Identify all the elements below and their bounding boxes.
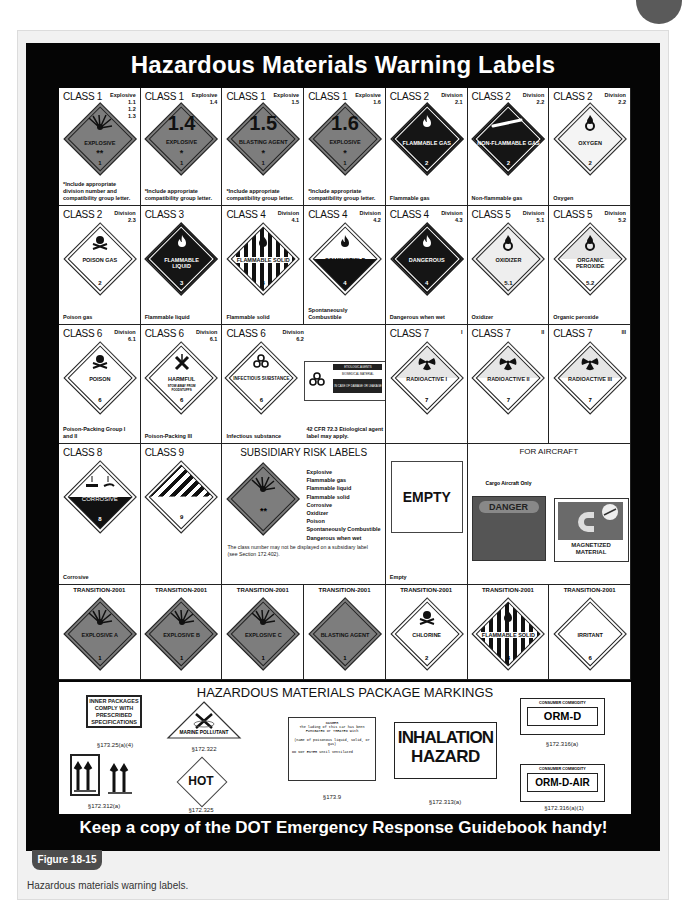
class-number: 4 [471,655,545,661]
aircraft-title: FOR AIRCRAFT [468,447,630,456]
class-name: CLASS 1 [63,91,102,102]
compat-mark: * [226,148,300,158]
label-caption: Poison-Packing Group I and II [63,426,136,440]
label-caption: *Include appropriate division number and… [63,181,136,202]
placard-diamond: DANGEROUS4 [390,222,464,296]
label-caption: Corrosive [63,574,136,581]
placard-label: OXIDIZER [481,257,535,263]
label-caption: *Include appropriate compatibility group… [145,188,218,202]
class-number: 6 [224,397,298,403]
package-markings: HAZARDOUS MATERIALS PACKAGE MARKINGS INN… [59,682,631,814]
division: III [621,329,626,336]
placard-diamond: HARMFULSTOW AWAY FROM FOODSTUFFS6 [145,341,219,415]
class-number: 3 [145,280,219,286]
placard-symbol-icon [390,114,464,134]
label-cell-row1: CLASS 2Division 2.2NON-FLAMMABLE GAS2Non… [468,88,550,206]
placard-diamond: OXIDIZER5.1 [471,222,545,296]
label-cell-row3: CLASS 7IIIRADIOACTIVE III7 [549,325,631,444]
class-number: 4 [390,280,464,286]
orm-d-marking: CONSUMER COMMODITY ORM-D [520,698,605,735]
class-number: 2 [390,655,464,661]
placard-diamond: ** [226,462,300,536]
label-caption: Empty [390,574,463,581]
label-cell-row3: CLASS 6Division 6.1POISON6Poison-Packing… [59,325,141,444]
class-number: 5.1 [471,280,545,286]
label-cell-row1: CLASS 2Division 2.1FLAMMABLE GAS2Flammab… [386,88,468,206]
fumigant-ref: §173.9 [302,794,362,800]
class-number: 2 [63,280,137,286]
explosion-icon [226,476,300,496]
subsidiary-item: Flammable solid [306,493,380,501]
subsidiary-title: SUBSIDIARY RISK LABELS [222,447,384,458]
etiologic-agent-label: ETIOLOGIC AGENTSBIOMEDICAL MATERIALIN CA… [304,361,385,401]
magnetized-text: MAGNETIZED MATERIAL [557,542,626,556]
placard-label: DANGEROUS [400,257,454,263]
placard-label: RADIOACTIVE I [390,376,464,382]
label-cell-row1: CLASS 1Explosive 1.51.5BLASTING AGENT*1*… [222,88,304,206]
class-name: CLASS 5 [472,209,511,220]
class-name: CLASS 2 [390,91,429,102]
transition-label-cell: TRANSITION-2001BLASTING AGENT1 [304,585,386,680]
label-cell-row3: CLASS 6Division 6.2INFECTIOUS SUBSTANCE6… [222,325,385,444]
placard-diamond: ORGANIC PEROXIDE5.2 [553,222,627,296]
class-number: 4 [226,280,300,286]
figure-caption: Hazardous materials warning labels. [27,880,188,891]
placard-label: POISON GAS [73,257,127,263]
class-number: 1 [63,655,137,661]
placard-symbol-icon [226,234,300,254]
placard-label: FLAMMABLE GAS [390,140,464,146]
placard-label: RADIOACTIVE III [553,376,627,382]
transition-label-cell: TRANSITION-2001EXPLOSIVE A1 [59,585,141,680]
placard-symbol-icon [553,234,627,256]
placard-symbol-icon [145,353,219,375]
compat-mark: ** [63,148,137,158]
class-number: 1 [226,655,300,661]
class-number: 1 [63,160,137,166]
class-name: CLASS 1 [226,91,265,102]
placard-diamond: CHLORINE2 [390,597,464,671]
subsidiary-item: Poison [306,517,380,525]
placard-label: INFECTIOUS SUBSTANCE [224,376,298,381]
fumigant-marking: DANGER The lading of this car has been F… [288,717,376,781]
class-number: 1 [308,160,382,166]
class-name: CLASS 6 [63,328,102,339]
class-number: 8 [63,516,137,522]
placard-label: FLAMMABLE SOLID [481,632,535,638]
inner-packages-ref: §173.25(a)(4) [87,742,143,748]
placard-label: BLASTING AGENT [226,139,300,145]
up-arrows-icon [72,756,98,794]
class-name: CLASS 1 [308,91,347,102]
labels-grid: CLASS 1Explosive 1.1 1.2 1.3EXPLOSIVE**1… [59,88,631,680]
placard-label: FLAMMABLE SOLID [236,257,290,263]
danger-text: DANGER [479,501,539,513]
up-arrows-icon [107,758,133,796]
label-cell-class8: CLASS 8CORROSIVE8Corrosive [59,444,141,585]
placard-label: BLASTING AGENT [318,632,372,638]
placard-symbol-icon [471,234,545,256]
division-number: 1.6 [308,112,382,135]
empty-label: EMPTY [391,461,463,533]
placard-diamond: EXPLOSIVE B1 [145,597,219,671]
placard-diamond: 1.5BLASTING AGENT*1 [226,102,300,176]
placard-symbol-icon [390,234,464,254]
placard-symbol-icon [145,609,219,629]
class-number: 1 [308,655,382,661]
class-number: 2 [471,160,545,166]
class-number: 6 [63,397,137,403]
placard-diamond: EXPLOSIVE**1 [63,102,137,176]
placard-diamond: RADIOACTIVE II7 [471,341,545,415]
class-number: 9 [145,514,219,520]
placard-symbol-icon [63,234,137,254]
label-cell-row2: CLASS 5Division 5.1OXIDIZER5.1Oxidizer [468,206,550,325]
class-name: CLASS 6 [145,328,184,339]
subsidiary-item: Dangerous when wet [306,534,380,542]
this-side-up-arrows-boxed [70,754,100,796]
placard-label: HARMFUL [145,376,219,382]
placard-label: EXPLOSIVE [308,139,382,145]
label-cell-class9: CLASS 99 [141,444,223,585]
class-number: 1 [145,160,219,166]
placard-sublabel: STOW AWAY FROM FOODSTUFFS [167,384,197,392]
placard-symbol-icon [63,609,137,629]
subsidiary-risk-cell: SUBSIDIARY RISK LABELS**ExplosiveFlammab… [222,444,385,585]
transition-label-cell: TRANSITION-2001CHLORINE2 [386,585,468,680]
